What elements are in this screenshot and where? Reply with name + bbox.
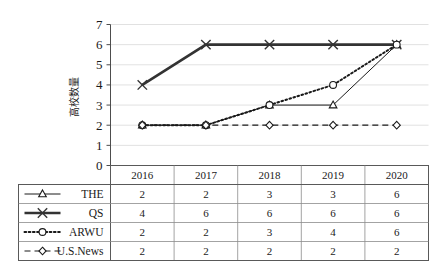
y-axis-tick-label: 2 xyxy=(96,118,103,133)
y-axis-tick-label: 7 xyxy=(96,17,103,32)
y-axis-tick-label: 4 xyxy=(96,77,103,92)
legend-marker xyxy=(39,247,46,255)
table-column-header: 2016 xyxy=(131,169,154,181)
table-cell-value: 6 xyxy=(394,226,400,238)
table-cell-value: 6 xyxy=(394,188,400,200)
table-text-layer: 20162017201820192020THE22336QS46666ARWU2… xyxy=(57,169,408,257)
legend-marker xyxy=(39,229,46,236)
table-column-header: 2020 xyxy=(386,169,409,181)
line-chart-with-data-table: 01234567 高校数量 20162017201820192020THE223… xyxy=(0,0,435,268)
y-axis-title-label: 高校数量 xyxy=(68,77,80,117)
y-axis-tick-labels: 01234567 xyxy=(96,17,111,173)
table-row-header-label: THE xyxy=(81,188,103,200)
legend-swatch-arwu xyxy=(25,229,61,236)
data-point-marker xyxy=(266,102,273,109)
y-axis-tick-label: 5 xyxy=(96,57,103,72)
table-cell-value: 3 xyxy=(330,188,336,200)
table-column-header: 2019 xyxy=(322,169,345,181)
series-the xyxy=(139,41,401,128)
y-axis-tick-label: 0 xyxy=(96,158,103,173)
data-point-marker xyxy=(266,121,273,129)
table-cell-value: 2 xyxy=(267,245,273,257)
legend-swatch-qs xyxy=(25,208,61,217)
table-cell-value: 2 xyxy=(203,188,209,200)
data-point-marker xyxy=(330,82,337,89)
table-row-header-label: U.S.News xyxy=(57,245,104,257)
table-row-header-label: ARWU xyxy=(69,226,104,238)
table-cell-value: 4 xyxy=(140,207,146,219)
y-axis-tick-label: 3 xyxy=(96,98,103,113)
table-column-header: 2017 xyxy=(195,169,218,181)
legend-swatch-u-s-news xyxy=(25,247,61,255)
table-cell-value: 2 xyxy=(394,245,400,257)
series-layer xyxy=(138,40,402,129)
table-cell-value: 6 xyxy=(267,207,273,219)
table-column-header: 2018 xyxy=(259,169,282,181)
legend-swatch-the xyxy=(25,190,61,197)
table-cell-value: 6 xyxy=(203,207,209,219)
y-axis-tick-label: 1 xyxy=(96,138,103,153)
table-cell-value: 4 xyxy=(330,226,336,238)
table-cell-value: 2 xyxy=(140,188,146,200)
table-row-header-label: QS xyxy=(89,207,104,219)
data-point-marker xyxy=(393,41,400,48)
table-cell-value: 3 xyxy=(267,226,273,238)
y-axis-title: 高校数量 xyxy=(68,77,80,117)
table-cell-value: 6 xyxy=(330,207,336,219)
table-cell-value: 2 xyxy=(203,245,209,257)
data-point-marker xyxy=(393,121,400,129)
chart-figure: 01234567 高校数量 20162017201820192020THE223… xyxy=(0,0,435,268)
table-cell-value: 2 xyxy=(140,245,146,257)
table-cell-value: 6 xyxy=(394,207,400,219)
table-cell-value: 2 xyxy=(140,226,146,238)
table-cell-value: 2 xyxy=(203,226,209,238)
y-axis-tick-label: 6 xyxy=(96,37,103,52)
legend-marker xyxy=(39,190,47,197)
table-cell-value: 2 xyxy=(330,245,336,257)
table-cell-value: 3 xyxy=(267,188,273,200)
data-point-marker xyxy=(330,121,337,129)
